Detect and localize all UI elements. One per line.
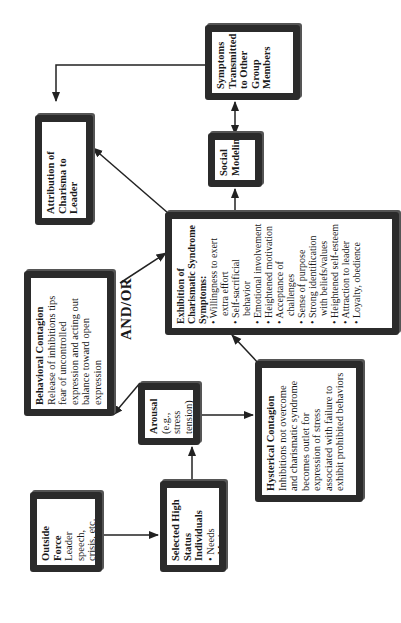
- needs-list: Needs Motives: [205, 492, 227, 561]
- node-title: Symptoms Transmitted to Other Group Memb…: [215, 36, 273, 89]
- rotated-diagram-canvas: AND/OR Outside Force Leader speech, cris…: [0, 0, 401, 623]
- node-title: Behavioral Contagion: [34, 282, 46, 405]
- node-title: Hysterical Contagion: [265, 372, 277, 491]
- node-social-modeling: Social Modeling: [208, 133, 262, 187]
- node-title: Selected High Status Individuals: [170, 492, 205, 561]
- symptoms-list: Willingness to exert extra effort Self-s…: [208, 223, 362, 324]
- node-attribution: Attribution of Charisma to Leader: [35, 115, 93, 225]
- node-selected-individuals: Selected High Status Individuals Needs M…: [160, 481, 226, 572]
- list-item: Self-sacrificial behavior: [230, 223, 252, 324]
- node-text: Leader speech,: [63, 503, 86, 561]
- node-outside-force: Outside Force Leader speech, crisis, etc…: [30, 492, 102, 572]
- edge-symptoms-to-attribution: [56, 65, 205, 101]
- node-title: Social Modeling: [218, 144, 241, 176]
- edge-arousal-to-behavioral: [113, 383, 140, 415]
- node-title: Attribution of Charisma to Leader: [45, 126, 80, 214]
- list-item: Emotional involvement: [252, 223, 263, 324]
- node-hysterical-contagion: Hysterical Contagion Inhibitions not ove…: [255, 361, 363, 502]
- list-item: Loyalty, obedience: [351, 223, 362, 324]
- list-item: Motives: [216, 492, 226, 561]
- list-item: Strong identification with beliefs/value…: [307, 223, 329, 324]
- node-symptoms-transmitted: Symptoms Transmitted to Other Group Memb…: [205, 25, 300, 100]
- node-text: Inhibitions not overcome and charismatic…: [277, 372, 346, 491]
- list-item: Sense of purpose: [296, 223, 307, 324]
- list-item: Heightened self-esteem: [329, 223, 340, 324]
- node-text: Release of inhibitions tips fear of unco…: [46, 282, 104, 405]
- node-title: Exhibition of Charismatic Syndrome Sympt…: [175, 223, 208, 324]
- and-or-label: AND/OR: [118, 278, 135, 340]
- node-text: crisis, etc.: [86, 503, 98, 561]
- node-title: Arousal: [148, 394, 160, 434]
- list-item: Acceptance of challenges: [274, 223, 296, 324]
- list-item: Willingness to exert extra effort: [208, 223, 230, 324]
- node-text: tension): [183, 394, 195, 434]
- list-item: Needs: [205, 492, 217, 561]
- node-text: (e.g., stress: [160, 394, 183, 434]
- list-item: Heightened motivation: [263, 223, 274, 324]
- node-charismatic-syndrome: Exhibition of Charismatic Syndrome Sympt…: [165, 212, 399, 335]
- node-arousal: Arousal (e.g., stress tension): [138, 383, 200, 445]
- list-item: Attraction to leader: [340, 223, 351, 324]
- edge-charismatic-to-attribution: [93, 148, 168, 213]
- node-behavioral-contagion: Behavioral Contagion Release of inhibiti…: [24, 271, 114, 416]
- node-title: Outside Force: [40, 503, 63, 561]
